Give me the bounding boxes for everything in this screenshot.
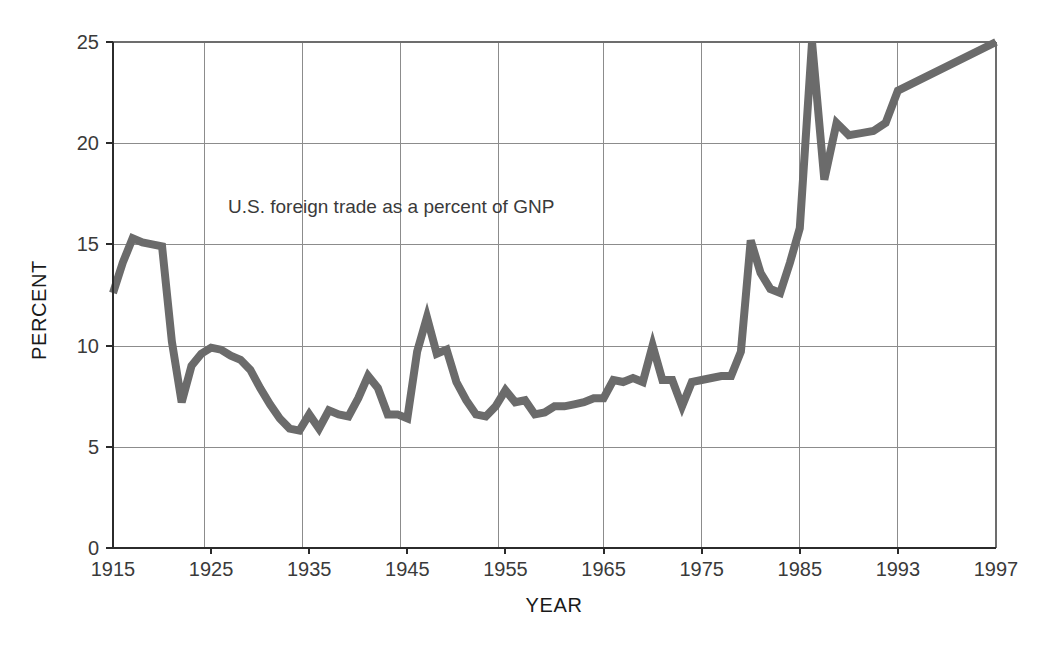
- chart-figure: 0510152025 19151925193519451955196519751…: [0, 0, 1048, 652]
- x-tick-label-1993: 1993: [876, 558, 921, 580]
- chart-annotation: U.S. foreign trade as a percent of GNP: [228, 196, 554, 217]
- x-axis-tick-labels: 1915192519351945195519651975198519931997: [91, 558, 1019, 580]
- y-tick-label-20: 20: [77, 132, 99, 154]
- line-chart-canvas: 0510152025 19151925193519451955196519751…: [0, 0, 1048, 652]
- y-axis-title: PERCENT: [28, 260, 50, 360]
- x-tick-label-1985: 1985: [778, 558, 823, 580]
- x-tick-label-1915: 1915: [91, 558, 136, 580]
- plot-frame: [113, 42, 996, 548]
- y-tick-label-10: 10: [77, 335, 99, 357]
- x-tick-label-1945: 1945: [385, 558, 430, 580]
- x-tick-label-1955: 1955: [483, 558, 528, 580]
- x-axis-title: YEAR: [526, 594, 583, 616]
- y-tick-label-5: 5: [88, 436, 99, 458]
- series-line-us-foreign-trade: [113, 42, 996, 431]
- x-tick-label-1925: 1925: [189, 558, 234, 580]
- y-axis-tick-labels: 0510152025: [77, 31, 99, 559]
- x-tick-label-1975: 1975: [679, 558, 724, 580]
- series-group: [113, 42, 996, 431]
- y-tick-label-25: 25: [77, 31, 99, 53]
- y-tick-label-15: 15: [77, 233, 99, 255]
- grid-lines-vertical: [204, 42, 897, 548]
- x-tick-label-1965: 1965: [581, 558, 626, 580]
- y-tick-label-0: 0: [88, 537, 99, 559]
- x-tick-label-1935: 1935: [287, 558, 332, 580]
- x-tick-label-1997: 1997: [974, 558, 1019, 580]
- y-tick-marks: [106, 42, 113, 548]
- axis-lines: [113, 42, 996, 548]
- grid-lines-horizontal: [113, 42, 996, 447]
